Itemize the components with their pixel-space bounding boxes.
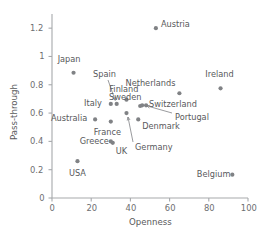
point-label: France (94, 128, 121, 136)
data-point (144, 103, 148, 107)
point-label: Italy (84, 99, 102, 107)
scatter-chart: AustriaJapanIrelandNetherlandsFinlandIta… (0, 0, 263, 243)
data-point (93, 117, 97, 121)
x-tick-label: 80 (204, 204, 215, 212)
point-label: USA (69, 169, 86, 177)
x-tick-label: 0 (50, 204, 55, 212)
data-point (115, 102, 119, 106)
point-label: Greece (80, 137, 109, 145)
point-label: Switzerland (149, 100, 197, 108)
y-tick-label: 1 (39, 52, 44, 60)
data-point (75, 159, 79, 163)
data-point (140, 103, 144, 107)
y-tick-label: 0.8 (30, 81, 43, 89)
annotation-label: Portugal (175, 113, 209, 121)
y-tick-label: 0.4 (30, 137, 43, 145)
x-axis-title: Openness (129, 218, 172, 227)
x-tick-label: 60 (165, 204, 176, 212)
y-tick-label: 0.6 (30, 109, 43, 117)
data-point (136, 117, 140, 121)
point-label: Sweden (109, 93, 141, 101)
data-point (109, 119, 113, 123)
annotation-label: Germany (135, 143, 173, 151)
y-axis-title: Pass-through (10, 84, 19, 140)
x-tick-label: 100 (241, 204, 257, 212)
data-point (154, 26, 158, 30)
point-label: Japan (58, 55, 81, 63)
data-point (218, 86, 222, 90)
data-point (111, 141, 115, 145)
data-point (177, 91, 181, 95)
data-point (230, 173, 234, 177)
data-point (124, 111, 128, 115)
point-label: Austria (161, 20, 190, 28)
x-tick-label: 20 (86, 204, 97, 212)
figure-caption (0, 234, 263, 243)
data-point (109, 102, 113, 106)
point-label: Ireland (205, 70, 233, 78)
point-label: Denmark (142, 122, 180, 130)
y-tick-label: 1.2 (30, 24, 43, 32)
x-tick-label: 40 (126, 204, 137, 212)
y-tick-label: 0.2 (30, 166, 43, 174)
data-point (71, 71, 75, 75)
y-tick-label: 0 (39, 194, 44, 202)
point-label: Australia (51, 114, 87, 122)
annotation-label: Spain (93, 70, 116, 78)
point-label: Belgium (197, 170, 231, 178)
point-label: UK (116, 147, 127, 155)
